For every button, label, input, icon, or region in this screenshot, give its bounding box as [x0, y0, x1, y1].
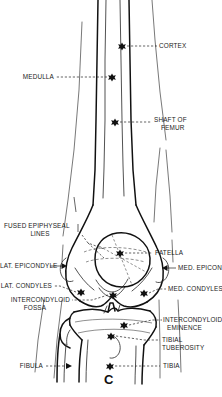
label-intercondyloid-eminence-line1: INTERCONDYLOID: [163, 316, 222, 323]
label-intercondyloid-fossa-line1: INTERCONDYLOID: [0, 296, 70, 303]
leader-fused-epiphyseal-lines: [74, 197, 104, 258]
distal-femur-condyles: [60, 205, 169, 307]
leader-fibula: [46, 363, 72, 369]
soft-tissue-outline-inner-right: [154, 148, 160, 378]
knee-radiograph-figure: CORTEX MEDULLA SHAFT OF FEMUR FUSED EPIP…: [0, 0, 222, 397]
label-lat-condyles: LAT. CONDYLES: [0, 282, 52, 289]
label-fused-epiphyseal-lines-line2: LINES: [4, 230, 76, 237]
label-fused-epiphyseal-lines-line1: FUSED EPIPHYSEAL: [4, 222, 70, 229]
label-intercondyloid-eminence-line2: EMINENCE: [167, 324, 202, 331]
label-tibia: TIBIA: [163, 362, 180, 369]
label-shaft-of-femur-line1: SHAFT OF: [154, 116, 187, 123]
label-tibial-tuberosity-line2: TUBEROSITY: [162, 344, 204, 351]
leader-patella: [116, 250, 152, 258]
figure-caption: C: [104, 372, 113, 387]
label-patella: PATELLA: [155, 249, 183, 256]
leader-medulla: [56, 74, 116, 82]
label-lat-epicondyle: LAT. EPICONDYLE: [0, 262, 48, 269]
leader-cortex: [118, 43, 157, 51]
femur-shaft: [93, 0, 136, 205]
patella-outline: [95, 233, 150, 287]
leader-tibia: [106, 363, 160, 371]
label-med-condyles: MED. CONDYLES: [168, 285, 222, 292]
knee-anatomy-drawing: [0, 0, 222, 397]
label-med-epicondyle: MED. EPICONDYLE: [178, 264, 222, 271]
label-shaft-of-femur-line2: FEMUR: [161, 124, 184, 131]
label-cortex: CORTEX: [159, 42, 186, 49]
label-intercondyloid-fossa-line2: FOSSA: [0, 304, 70, 311]
label-fibula: FIBULA: [0, 362, 43, 369]
label-medulla: MEDULLA: [6, 73, 54, 80]
label-tibial-tuberosity-line1: TIBIAL: [162, 336, 182, 343]
leader-med-condyles: [140, 289, 166, 297]
